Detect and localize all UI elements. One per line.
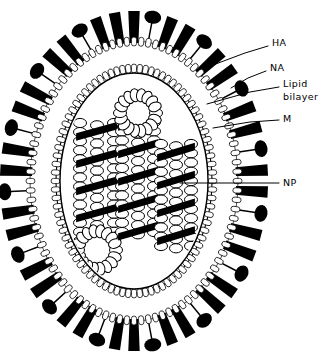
lipid-molecule bbox=[125, 64, 131, 73]
lipid-tail bbox=[27, 159, 36, 165]
np-bead bbox=[74, 200, 87, 209]
lipid-tail bbox=[52, 195, 62, 201]
lipid-molecule bbox=[231, 150, 241, 156]
lipid-tail bbox=[26, 188, 35, 194]
lipid-tail bbox=[26, 169, 35, 175]
np-bead bbox=[185, 214, 198, 223]
lipid-molecule bbox=[206, 203, 216, 210]
lipid-tail bbox=[137, 64, 143, 73]
lipid-molecule bbox=[51, 170, 60, 176]
rnp-segment bbox=[155, 139, 198, 253]
np-bead bbox=[132, 156, 145, 165]
lipid-molecule bbox=[28, 150, 38, 156]
lipid-molecule bbox=[137, 288, 143, 297]
lipid-tail bbox=[208, 187, 217, 193]
lipid-molecule bbox=[26, 169, 35, 175]
lipid-tail bbox=[28, 206, 38, 212]
label-na: NA bbox=[270, 62, 285, 73]
lipid-molecule bbox=[208, 170, 217, 176]
lipid-molecule bbox=[26, 178, 35, 183]
lipid-tail bbox=[232, 159, 241, 165]
np-bead bbox=[74, 146, 87, 155]
lipid-tail bbox=[137, 288, 143, 297]
lipid-molecule bbox=[131, 289, 136, 298]
influenza-virion-figure: HANALipidbilayerMNP bbox=[0, 0, 329, 359]
lipid-tail bbox=[206, 152, 216, 159]
lipid-molecule bbox=[26, 188, 35, 194]
lipid-molecule bbox=[231, 206, 241, 212]
np-bead bbox=[74, 173, 87, 182]
lipid-molecule bbox=[131, 37, 136, 46]
np-bead bbox=[155, 167, 168, 176]
np-bead bbox=[74, 118, 87, 127]
lipid-tail bbox=[232, 197, 241, 203]
lipid-molecule bbox=[138, 315, 144, 324]
label-lipid-bilayer-2: bilayer bbox=[283, 91, 318, 102]
np-bead bbox=[132, 211, 145, 220]
lipid-molecule bbox=[125, 288, 131, 297]
np-bead bbox=[91, 139, 104, 148]
lipid-molecule bbox=[207, 161, 217, 167]
np-bead bbox=[116, 136, 129, 145]
virion-diagram: HANALipidbilayerMNP bbox=[0, 0, 329, 359]
lipid-tail bbox=[125, 288, 131, 297]
lipid-tail bbox=[125, 64, 131, 73]
lipid-molecule bbox=[52, 195, 62, 201]
lipid-tail bbox=[51, 170, 60, 176]
lipid-tail bbox=[208, 170, 217, 176]
np-bead bbox=[170, 160, 183, 169]
label-np: NP bbox=[283, 177, 297, 188]
np-bead bbox=[116, 191, 129, 200]
lipid-tail bbox=[131, 37, 136, 46]
lipid-tail bbox=[207, 195, 217, 201]
np-bead bbox=[116, 163, 129, 172]
lipid-tail bbox=[52, 161, 62, 167]
lipid-molecule bbox=[53, 203, 63, 210]
lipid-tail bbox=[231, 150, 241, 156]
np-bead bbox=[155, 139, 168, 148]
lipid-tail bbox=[138, 37, 144, 46]
np-bead bbox=[170, 216, 183, 225]
lipid-molecule bbox=[208, 187, 217, 193]
lipid-molecule bbox=[53, 152, 63, 159]
np-bead bbox=[132, 184, 145, 193]
lipid-molecule bbox=[27, 197, 36, 203]
lipid-molecule bbox=[138, 37, 144, 46]
lipid-molecule bbox=[51, 178, 60, 183]
label-ha: HA bbox=[272, 37, 287, 48]
lipid-tail bbox=[51, 178, 60, 183]
lipid-molecule bbox=[207, 195, 217, 201]
lipid-tail bbox=[53, 152, 63, 159]
lipid-tail bbox=[28, 150, 38, 156]
lipid-molecule bbox=[233, 188, 242, 194]
lipid-tail bbox=[138, 315, 144, 324]
np-bead bbox=[91, 166, 104, 175]
lipid-molecule bbox=[131, 64, 136, 73]
np-bead bbox=[155, 195, 168, 204]
np-bead bbox=[116, 218, 129, 227]
lipid-tail bbox=[53, 203, 63, 210]
lipid-molecule bbox=[233, 169, 242, 175]
lipid-tail bbox=[26, 178, 35, 183]
np-bead bbox=[185, 158, 198, 167]
lipid-molecule bbox=[27, 159, 36, 165]
lipid-molecule bbox=[232, 159, 241, 165]
lipid-tail bbox=[207, 161, 217, 167]
lipid-molecule bbox=[51, 187, 60, 193]
np-bead bbox=[170, 244, 183, 253]
lipid-tail bbox=[233, 169, 242, 175]
lipid-tail bbox=[131, 289, 136, 298]
label-m: M bbox=[283, 113, 292, 124]
label-lipid-bilayer: Lipid bbox=[283, 78, 308, 89]
lipid-molecule bbox=[28, 206, 38, 212]
lipid-tail bbox=[27, 197, 36, 203]
lipid-tail bbox=[131, 316, 136, 325]
lipid-tail bbox=[206, 203, 216, 210]
lipid-molecule bbox=[206, 152, 216, 159]
np-bead bbox=[91, 193, 104, 202]
np-bead bbox=[185, 186, 198, 195]
lipid-molecule bbox=[137, 64, 143, 73]
lipid-tail bbox=[131, 64, 136, 73]
lipid-molecule bbox=[131, 316, 136, 325]
lipid-tail bbox=[233, 188, 242, 194]
